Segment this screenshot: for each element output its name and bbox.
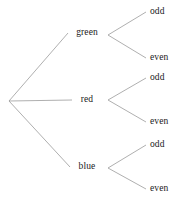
leaf-label-blue-odd: odd xyxy=(150,140,165,150)
branch-label-red: red xyxy=(81,95,93,105)
leaf-label-red-even: even xyxy=(150,117,168,127)
tree-diagram: green red blue odd even odd even odd eve… xyxy=(0,0,185,203)
edge-red-to-red-odd xyxy=(108,78,146,100)
edge-blue-to-blue-even xyxy=(108,168,146,189)
edge-red-to-red-even xyxy=(108,100,146,122)
leaf-label-green-odd: odd xyxy=(150,7,165,17)
leaf-label-blue-even: even xyxy=(150,184,168,194)
edge-root-to-green xyxy=(9,33,68,101)
branch-label-blue: blue xyxy=(79,162,96,172)
edge-root-to-red xyxy=(9,100,72,101)
edge-green-to-green-even xyxy=(108,35,146,58)
edge-blue-to-blue-odd xyxy=(108,145,146,168)
leaf-label-green-even: even xyxy=(150,53,168,63)
leaf-label-red-odd: odd xyxy=(150,73,165,83)
edge-root-to-blue xyxy=(9,101,70,167)
branch-label-green: green xyxy=(76,28,98,38)
edge-green-to-green-odd xyxy=(108,12,146,35)
